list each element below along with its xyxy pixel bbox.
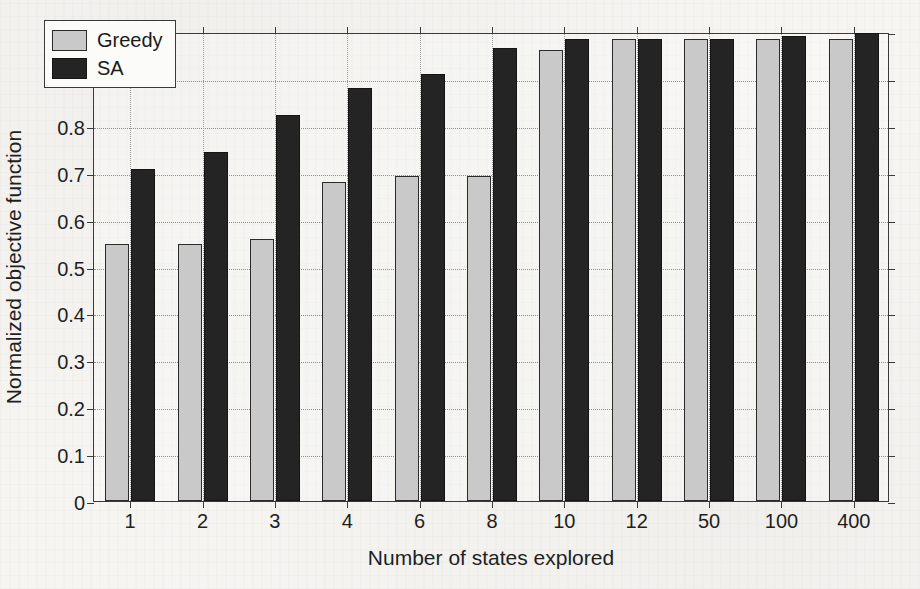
x-tick-mark <box>854 501 855 508</box>
y-tick-label: 0.7 <box>57 163 85 186</box>
x-tick-mark-top <box>492 27 493 34</box>
bar-sa-400 <box>855 33 879 501</box>
legend-swatch-sa <box>52 58 87 79</box>
y-tick-mark <box>87 409 94 410</box>
legend-item-greedy: Greedy <box>52 26 163 54</box>
x-tick-label: 400 <box>837 510 870 533</box>
x-tick-label: 8 <box>486 510 497 533</box>
y-tick-mark-right <box>888 128 895 129</box>
y-tick-mark <box>87 456 94 457</box>
x-tick-label: 50 <box>698 510 720 533</box>
x-tick-mark <box>130 501 131 508</box>
plot-area: 00.10.20.30.40.50.60.70.80.91 1234681012… <box>93 33 889 502</box>
bar-sa-100 <box>782 36 806 501</box>
y-tick-mark-right <box>888 175 895 176</box>
bar-sa-10 <box>565 39 589 501</box>
x-tick-mark <box>420 501 421 508</box>
legend-label-greedy: Greedy <box>97 30 163 50</box>
y-tick-mark <box>87 222 94 223</box>
x-tick-mark-top <box>564 27 565 34</box>
x-tick-label: 2 <box>197 510 208 533</box>
y-tick-mark <box>87 128 94 129</box>
y-tick-mark-right <box>888 34 895 35</box>
x-tick-mark <box>781 501 782 508</box>
legend-label-sa: SA <box>97 58 124 78</box>
bar-greedy-400 <box>829 39 853 501</box>
bar-greedy-1 <box>105 244 129 501</box>
y-tick-mark-right <box>888 222 895 223</box>
x-tick-mark <box>564 501 565 508</box>
y-tick-label: 0.1 <box>57 445 85 468</box>
x-tick-mark <box>492 501 493 508</box>
x-tick-label: 1 <box>125 510 136 533</box>
chart-legend: Greedy SA <box>44 20 176 88</box>
bar-greedy-50 <box>684 39 708 501</box>
x-tick-mark <box>347 501 348 508</box>
bar-sa-6 <box>421 74 445 501</box>
x-tick-mark <box>275 501 276 508</box>
y-tick-label: 0.3 <box>57 351 85 374</box>
y-tick-mark-right <box>888 456 895 457</box>
y-tick-mark-right <box>888 503 895 504</box>
y-tick-label: 0.2 <box>57 398 85 421</box>
x-tick-label: 12 <box>626 510 648 533</box>
bar-sa-1 <box>131 169 155 501</box>
y-tick-mark-right <box>888 362 895 363</box>
y-tick-mark <box>87 175 94 176</box>
y-tick-mark <box>87 269 94 270</box>
x-tick-mark-top <box>420 27 421 34</box>
bar-sa-8 <box>493 48 517 501</box>
x-tick-label: 3 <box>269 510 280 533</box>
y-tick-mark <box>87 362 94 363</box>
x-tick-mark-top <box>637 27 638 34</box>
x-tick-mark <box>637 501 638 508</box>
bar-sa-4 <box>348 88 372 501</box>
bar-greedy-4 <box>322 182 346 501</box>
y-tick-label: 0.5 <box>57 257 85 280</box>
x-tick-label: 100 <box>765 510 798 533</box>
bar-sa-50 <box>710 39 734 501</box>
bar-sa-2 <box>204 152 228 501</box>
bar-greedy-2 <box>178 244 202 501</box>
legend-swatch-greedy <box>52 30 87 51</box>
y-tick-label: 0 <box>74 492 85 515</box>
bar-chart-figure: Normalized objective function Number of … <box>0 0 920 589</box>
y-tick-mark-right <box>888 315 895 316</box>
legend-item-sa: SA <box>52 54 163 82</box>
bar-greedy-10 <box>539 50 563 501</box>
x-tick-label: 4 <box>342 510 353 533</box>
bar-greedy-3 <box>250 239 274 501</box>
y-tick-label: 0.4 <box>57 304 85 327</box>
y-tick-mark <box>87 315 94 316</box>
x-tick-mark <box>203 501 204 508</box>
y-tick-mark-right <box>888 81 895 82</box>
y-tick-mark-right <box>888 409 895 410</box>
bar-sa-12 <box>638 39 662 501</box>
bar-greedy-100 <box>756 39 780 501</box>
y-axis-title: Normalized objective function <box>2 130 26 404</box>
x-tick-mark-top <box>275 27 276 34</box>
bar-sa-3 <box>276 115 300 501</box>
x-tick-mark-top <box>781 27 782 34</box>
x-tick-mark <box>709 501 710 508</box>
y-tick-label: 0.6 <box>57 210 85 233</box>
y-tick-mark-right <box>888 269 895 270</box>
x-tick-mark-top <box>709 27 710 34</box>
x-tick-label: 10 <box>553 510 575 533</box>
bar-greedy-6 <box>395 176 419 501</box>
y-tick-label: 0.8 <box>57 116 85 139</box>
x-tick-label: 6 <box>414 510 425 533</box>
bar-greedy-12 <box>612 39 636 501</box>
bar-greedy-8 <box>467 176 491 501</box>
x-tick-mark-top <box>203 27 204 34</box>
y-tick-mark <box>87 503 94 504</box>
x-axis-title: Number of states explored <box>368 546 614 570</box>
x-tick-mark-top <box>347 27 348 34</box>
